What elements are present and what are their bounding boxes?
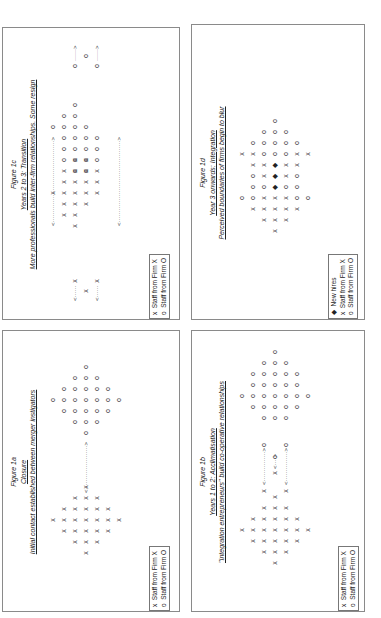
firm-x-staff-mark: x xyxy=(271,558,279,568)
firm-x-staff-mark: x xyxy=(304,149,312,159)
firm-o-staff-mark: o xyxy=(271,402,279,412)
firm-o-staff-mark: o xyxy=(82,362,90,372)
resign-arrow: ······> xyxy=(94,46,100,62)
firm-x-staff-mark: x xyxy=(71,188,79,198)
firm-x-staff-mark: x xyxy=(104,526,112,536)
firm-o-staff-mark: o xyxy=(82,417,90,427)
firm-o-staff-mark: o xyxy=(249,369,257,379)
firm-o-staff-mark: o xyxy=(293,171,301,181)
firm-x-staff-mark: x xyxy=(104,515,112,525)
firm-o-staff-mark: o xyxy=(71,417,79,427)
figure-1d-titles: Figure 1d Year 3 onwards: Integration Pe… xyxy=(198,25,227,321)
firm-o-staff-mark: o xyxy=(93,144,101,154)
firm-x-staff-mark: x xyxy=(93,537,101,547)
firm-o-staff-mark: o xyxy=(249,391,257,401)
firm-x-staff-mark: x xyxy=(260,160,268,170)
firm-x-staff-mark: x xyxy=(60,199,68,209)
firm-x-staff-mark: x xyxy=(271,492,279,502)
firm-o-staff-mark: o xyxy=(82,373,90,383)
firm-x-staff-mark: x xyxy=(293,149,301,159)
firm-o-staff-mark: o xyxy=(271,413,279,423)
firm-o-staff-mark: o xyxy=(82,155,90,165)
firm-o-staff-mark: o xyxy=(282,380,290,390)
firm-o-staff-mark: o xyxy=(282,402,290,412)
firm-o-staff-mark: o xyxy=(282,358,290,368)
firm-x-staff-mark: x xyxy=(71,537,79,547)
resign-arrow: <······ xyxy=(72,286,78,302)
resigning-x-staff: x xyxy=(93,276,101,286)
firm-o-staff-mark: o xyxy=(104,384,112,394)
firm-o-staff-mark: o xyxy=(282,182,290,192)
firm-x-staff-mark: x xyxy=(260,215,268,225)
figure-1d-legend: ◆ New hires x Staff from Firm X o Staff … xyxy=(328,254,358,319)
firm-x-staff-mark: x xyxy=(260,204,268,214)
firm-x-staff-mark: x xyxy=(249,514,257,524)
firm-o-staff-mark: o xyxy=(49,122,57,132)
firm-o-staff-mark: o xyxy=(60,395,68,405)
firm-x-staff-mark: x xyxy=(238,525,246,535)
firm-o-staff-mark: o xyxy=(282,138,290,148)
firm-o-staff-mark: o xyxy=(82,406,90,416)
firm-o-staff-mark: o xyxy=(71,395,79,405)
firm-o-staff-mark: o xyxy=(115,395,123,405)
firm-o-staff-mark: o xyxy=(71,100,79,110)
new-hire-mark: ◆ xyxy=(271,160,279,170)
firm-x-staff-mark: x xyxy=(282,525,290,535)
firm-o-staff-mark: o xyxy=(260,380,268,390)
firm-x-staff-mark: x xyxy=(293,160,301,170)
firm-o-staff-mark: o xyxy=(93,406,101,416)
firm-x-staff-mark: x xyxy=(82,504,90,514)
resigning-x-staff: x xyxy=(82,286,90,296)
firm-x-staff-mark: x xyxy=(71,210,79,220)
resigning-x-staff: x xyxy=(71,276,79,286)
firm-x-staff-mark: x xyxy=(93,493,101,503)
firm-o-staff-mark: o xyxy=(293,391,301,401)
firm-o-staff-mark: o xyxy=(71,144,79,154)
firm-o-staff-mark: o xyxy=(249,182,257,192)
firm-o-staff-mark: o xyxy=(104,406,112,416)
firm-x-staff-mark: x xyxy=(260,193,268,203)
firm-o-staff-mark: o xyxy=(60,144,68,154)
firm-o-staff-mark: o xyxy=(293,138,301,148)
relationship-arrow: <·······································… xyxy=(50,137,56,226)
firm-x-staff-mark: x xyxy=(71,177,79,187)
firm-o-staff-mark: o xyxy=(60,111,68,121)
contact-arrow: <······················> xyxy=(83,442,89,493)
firm-o-staff-mark: o xyxy=(304,193,312,203)
firm-o-staff-mark: o xyxy=(82,428,90,438)
figure-1c-titles: Figure 1c Years 2 to 3: Transition More … xyxy=(9,28,38,321)
relationship-arrow: <·······································… xyxy=(116,137,122,226)
firm-x-staff-mark: x xyxy=(71,526,79,536)
firm-x-staff-mark: x xyxy=(271,468,279,478)
firm-o-staff-mark: o xyxy=(271,138,279,148)
firm-o-staff-mark: o xyxy=(282,413,290,423)
legend-new-hires-entry: ◆ New hires xyxy=(330,258,339,315)
firm-o-staff-mark: o xyxy=(293,402,301,412)
firm-x-staff-mark: x xyxy=(271,226,279,236)
legend-o-entry: o Staff from Firm O xyxy=(160,258,169,315)
firm-x-staff-mark: x xyxy=(82,493,90,503)
legend-x-entry: x Staff from Firm X xyxy=(340,550,349,607)
firm-o-staff-mark: o xyxy=(260,369,268,379)
figure-1a-description: Initial contact established between merg… xyxy=(28,331,38,613)
firm-x-staff-mark: x xyxy=(282,547,290,557)
firm-o-staff-mark: o xyxy=(60,122,68,132)
firm-x-staff-mark: x xyxy=(282,536,290,546)
firm-x-staff-mark: x xyxy=(93,188,101,198)
firm-o-staff-mark: o xyxy=(249,171,257,181)
firm-x-staff-mark: x xyxy=(249,204,257,214)
figure-1b-panel: Figure 1b Years 1 to 2: Acclimatisation … xyxy=(191,330,365,612)
firm-x-staff-mark: x xyxy=(260,536,268,546)
figure-1d-panel: Figure 1d Year 3 onwards: Integration Pe… xyxy=(191,24,365,320)
firm-o-staff-mark: o xyxy=(249,402,257,412)
firm-o-staff-mark: o xyxy=(60,133,68,143)
firm-x-staff-mark: x xyxy=(71,515,79,525)
firm-x-staff-mark: x xyxy=(271,215,279,225)
firm-o-staff-mark: o xyxy=(260,402,268,412)
firm-x-staff-mark: x xyxy=(293,525,301,535)
firm-x-staff-mark: x xyxy=(260,547,268,557)
firm-x-staff-mark: x xyxy=(282,193,290,203)
firm-o-staff-mark: o xyxy=(260,182,268,192)
firm-o-staff-mark: o xyxy=(271,347,279,357)
firm-x-staff-mark: x xyxy=(93,177,101,187)
